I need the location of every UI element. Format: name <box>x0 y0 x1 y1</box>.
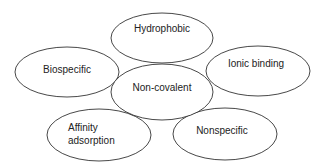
label-nonspecific: Nonspecific <box>196 125 248 136</box>
label-affinity-line1: Affinity <box>68 122 98 133</box>
node-hydrophobic: Hydrophobic <box>111 13 213 63</box>
node-ionic-binding: Ionic binding <box>206 46 310 96</box>
label-biospecific: Biospecific <box>43 64 91 75</box>
label-affinity-line2: adsorption <box>68 135 115 146</box>
node-biospecific: Biospecific <box>15 47 119 97</box>
node-non-covalent: Non-covalent <box>111 64 213 120</box>
ellipse-ionic-binding <box>206 46 310 96</box>
diagram-canvas: Hydrophobic Biospecific Ionic binding Af… <box>0 0 327 166</box>
ellipse-hydrophobic <box>111 13 213 63</box>
label-ionic-binding: Ionic binding <box>228 58 284 69</box>
label-non-covalent: Non-covalent <box>133 82 192 93</box>
label-hydrophobic: Hydrophobic <box>134 23 190 34</box>
node-affinity-adsorption: Affinity adsorption <box>47 109 151 161</box>
